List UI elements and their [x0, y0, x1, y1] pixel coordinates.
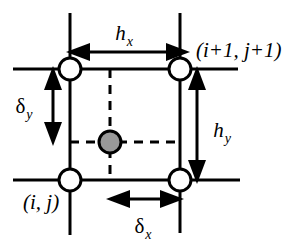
node-upper-right: [169, 58, 191, 80]
hx-label-symbol: h: [115, 21, 126, 45]
node-lower-left: [59, 169, 81, 191]
node-label-upper-right: (i+1, j+1): [196, 38, 282, 62]
delta-y-arrowhead-bottom: [44, 122, 62, 146]
interior-point: [99, 131, 121, 153]
delta-y-label-symbol: δ: [15, 94, 25, 118]
delta-x-arrowhead-left: [106, 190, 130, 208]
delta-y-dimension-arrow: [44, 66, 62, 146]
delta-x-label-symbol: δ: [134, 214, 144, 238]
delta-x-dimension-arrow: [106, 190, 184, 208]
hy-label: hy: [213, 118, 232, 146]
hy-label-subscript: y: [223, 131, 232, 146]
node-lower-right: [169, 169, 191, 191]
hx-label-subscript: x: [126, 34, 134, 49]
dashed-construction-lines: [70, 69, 180, 180]
grid-nodes: [59, 58, 191, 191]
node-label-lower-left: (i, j): [23, 190, 59, 214]
delta-y-label: δy: [15, 94, 33, 122]
delta-y-label-subscript: y: [24, 107, 33, 122]
hy-label-symbol: h: [213, 118, 224, 142]
hx-label: hx: [115, 21, 134, 49]
grid-cell-diagram: hx hy δy δx (i, j) (i+1, j+1): [0, 0, 291, 249]
hy-dimension-arrow: [188, 66, 206, 184]
node-upper-left: [59, 58, 81, 80]
diagram-canvas: hx hy δy δx (i, j) (i+1, j+1): [0, 0, 291, 249]
delta-x-label: δx: [134, 214, 152, 242]
delta-x-label-subscript: x: [144, 227, 152, 242]
